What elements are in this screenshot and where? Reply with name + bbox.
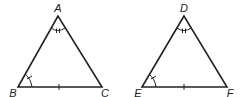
vertex-label-c: C xyxy=(101,87,109,97)
angle-d-arc xyxy=(177,28,191,31)
triangle-abc xyxy=(18,16,102,90)
vertex-label-f: F xyxy=(227,87,235,97)
vertex-label-b: B xyxy=(9,87,16,97)
vertex-label-d: D xyxy=(180,2,188,14)
vertex-label-a: A xyxy=(53,2,61,14)
vertex-label-e: E xyxy=(134,87,142,97)
angle-b-arc xyxy=(25,74,32,87)
congruent-triangles-diagram: A B C D E F xyxy=(0,0,252,97)
triangle-def xyxy=(142,16,227,90)
angle-a-arc xyxy=(51,28,65,31)
angle-e-arc xyxy=(149,74,156,87)
